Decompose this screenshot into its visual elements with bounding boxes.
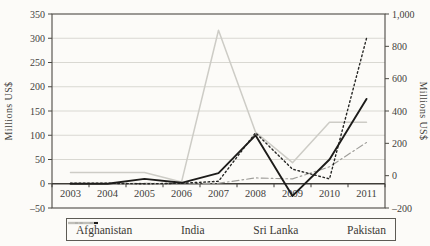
left-tick-label: 150 (30, 106, 45, 117)
left-tick-label: 100 (30, 130, 45, 141)
legend: AfghanistanIndiaSri LankaPakistan (66, 218, 396, 241)
series-line-sri-lanka (71, 143, 367, 184)
right-tick-label: 400 (392, 106, 407, 117)
legend-item-sri-lanka: Sri Lanka (253, 224, 298, 236)
left-tick-label: 300 (30, 33, 45, 44)
left-tick-label: 0 (40, 178, 45, 189)
year-label: 2004 (97, 188, 119, 199)
right-tick-label: 800 (392, 41, 407, 52)
right-tick-label: 200 (392, 138, 407, 149)
left-tick-label: 50 (35, 154, 45, 165)
year-label: 2011 (356, 188, 377, 199)
left-tick-label: 250 (30, 57, 45, 68)
legend-item-india: India (181, 224, 205, 236)
year-label: 2005 (134, 188, 155, 199)
line-chart-canvas: 350300250200150100500–501,00080060040020… (0, 0, 430, 246)
left-axis-title: Millions US$ (3, 82, 14, 141)
figure: 350300250200150100500–501,00080060040020… (0, 0, 430, 246)
right-tick-label: –200 (391, 203, 412, 214)
right-tick-label: 0 (392, 170, 397, 181)
left-tick-label: –50 (29, 203, 45, 214)
legend-label-pakistan: Pakistan (347, 224, 386, 236)
right-axis-title: Millions US$ (418, 82, 429, 141)
legend-label-sri-lanka: Sri Lanka (253, 224, 298, 236)
right-tick-label: 1,000 (392, 9, 415, 20)
year-label: 2008 (245, 188, 266, 199)
legend-label-india: India (181, 224, 205, 236)
year-label: 2006 (171, 188, 192, 199)
year-label: 2003 (60, 188, 81, 199)
left-tick-label: 200 (30, 81, 45, 92)
left-tick-label: 350 (30, 9, 45, 20)
legend-swatch-pakistan (67, 219, 95, 227)
legend-item-pakistan: Pakistan (347, 224, 386, 236)
year-label: 2007 (208, 188, 229, 199)
right-tick-label: 600 (392, 73, 407, 84)
year-label: 2010 (319, 188, 340, 199)
